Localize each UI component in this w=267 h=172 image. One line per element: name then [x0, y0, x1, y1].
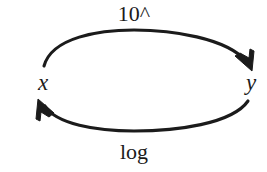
edge-arc-x-to-y — [44, 30, 246, 66]
node-y: y — [238, 71, 264, 94]
arrowhead-to-x-icon — [36, 99, 54, 121]
edge-label-x-to-y: 10^ — [84, 3, 184, 25]
diagram-canvas: x y 10^ log — [0, 0, 267, 172]
node-x: x — [30, 71, 56, 94]
edge-arc-y-to-x — [45, 101, 248, 131]
edge-label-y-to-x: log — [84, 141, 184, 163]
